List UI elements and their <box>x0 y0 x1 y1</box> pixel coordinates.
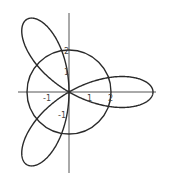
y-tick-label-neg1: -1 <box>58 111 66 120</box>
x-tick-label-1: 1 <box>87 94 92 103</box>
x-tick-label-2: 2 <box>108 94 113 103</box>
y-tick-label-2: 2 <box>64 47 69 56</box>
polar-plot: -1 1 2 2 1 -1 <box>0 0 170 185</box>
x-tick-label-neg1: -1 <box>43 94 51 103</box>
y-tick-label-1: 1 <box>64 68 69 77</box>
